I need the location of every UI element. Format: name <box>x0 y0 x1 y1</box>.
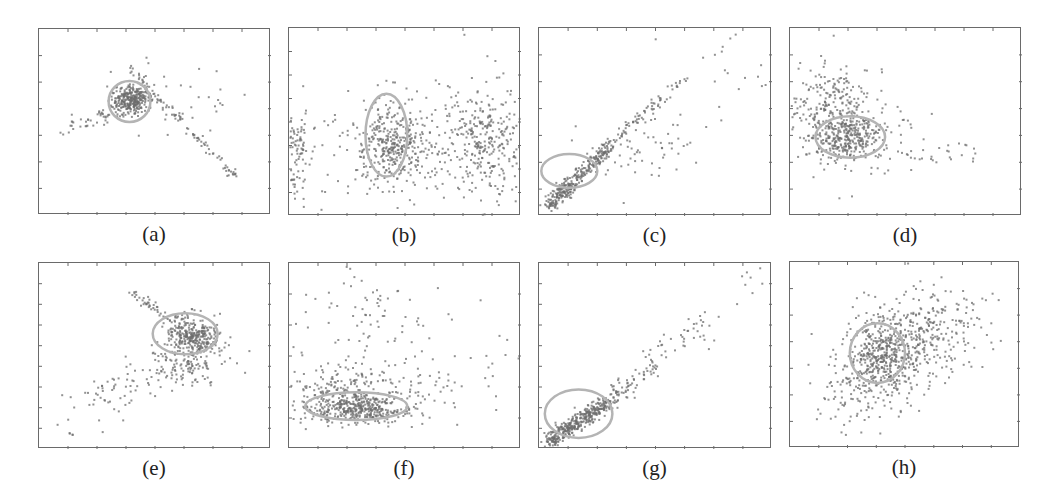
scatter-plot <box>289 263 521 449</box>
plot-area <box>38 262 270 448</box>
plot-area <box>288 262 520 448</box>
data-points <box>290 266 519 430</box>
scatter-plot <box>289 28 521 216</box>
scatter-plot <box>539 263 772 449</box>
panel-caption: (b) <box>288 223 520 248</box>
scatter-plot <box>790 262 1020 448</box>
panel-caption: (a) <box>38 222 270 247</box>
scatter-plot <box>39 29 271 215</box>
panel-caption: (g) <box>538 456 771 481</box>
plot-area <box>38 28 270 214</box>
plot-area <box>789 261 1019 447</box>
scatter-plot <box>39 263 271 449</box>
plot-area <box>538 27 771 215</box>
panel-caption: (d) <box>789 223 1021 248</box>
scatter-plot <box>790 28 1022 216</box>
data-points <box>60 57 246 178</box>
data-points <box>57 291 251 436</box>
panel-caption: (h) <box>789 455 1019 480</box>
cluster-ellipse <box>153 313 218 354</box>
plot-area <box>288 27 520 215</box>
panel-caption: (c) <box>538 223 771 248</box>
data-points <box>289 34 520 216</box>
panel-caption: (f) <box>288 456 520 481</box>
scatter-plot <box>539 28 772 216</box>
panel-caption: (e) <box>38 456 270 481</box>
data-points <box>540 267 763 447</box>
data-points <box>539 34 766 212</box>
data-points <box>791 35 977 200</box>
plot-area <box>789 27 1021 215</box>
plot-area <box>538 262 771 448</box>
